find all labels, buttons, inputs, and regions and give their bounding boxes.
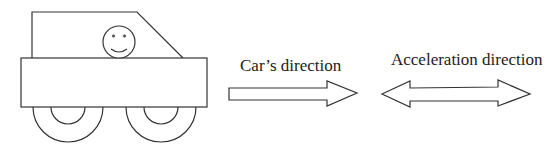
acceleration-direction-label: Acceleration direction [391,51,543,68]
front-wheel-hub [144,107,178,124]
acceleration-direction-arrow-icon [382,80,530,107]
car-direction-arrow-icon [229,81,357,106]
driver-face-icon [103,26,135,58]
car [21,12,207,142]
car-body [21,58,207,107]
car-direction-label: Car’s direction [240,57,341,74]
rear-wheel [33,107,103,142]
rear-wheel-hub [51,107,85,124]
front-wheel [126,107,196,142]
